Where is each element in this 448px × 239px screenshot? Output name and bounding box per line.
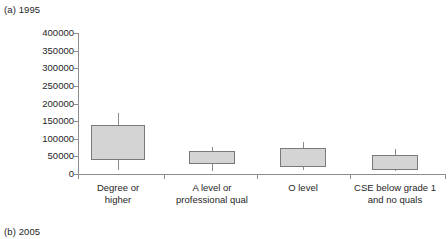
median-line — [189, 157, 235, 158]
x-axis-tick-mark — [445, 174, 446, 179]
y-axis-tick-mark — [74, 68, 78, 69]
y-axis-tick-label: 250000 — [18, 81, 74, 91]
x-axis-label-line2: professional qual — [157, 194, 267, 206]
median-line — [91, 144, 145, 145]
median-line — [372, 161, 418, 162]
y-axis-tick-mark — [74, 104, 78, 105]
x-axis-line — [78, 174, 445, 175]
y-axis-tick-label: 150000 — [18, 116, 74, 126]
boxplot-chart-1995: 4000003500003000002500002000001500001000… — [0, 22, 448, 212]
x-axis-tick-mark — [350, 174, 351, 179]
interquartile-box — [91, 125, 145, 160]
panel-b-caption: (b) 2005 — [4, 226, 40, 237]
x-axis-label-line1: CSE below grade 1 — [340, 182, 448, 194]
y-axis-tick-label: 100000 — [18, 134, 74, 144]
y-axis-tick-mark — [74, 33, 78, 34]
y-axis-tick-mark — [74, 86, 78, 87]
panel-a-caption: (a) 1995 — [4, 4, 40, 15]
y-axis-line — [78, 33, 79, 174]
x-axis-label-line2: and no quals — [340, 194, 448, 206]
x-axis-tick-mark — [78, 174, 79, 179]
y-axis-tick-mark — [74, 121, 78, 122]
y-axis-tick-mark — [74, 51, 78, 52]
y-axis-tick-label: 300000 — [18, 63, 74, 73]
x-axis-label-4: CSE below grade 1and no quals — [340, 182, 448, 205]
median-line — [280, 156, 326, 157]
x-axis-tick-mark — [164, 174, 165, 179]
y-axis-tick-mark — [74, 156, 78, 157]
y-axis-tick-label: 50000 — [18, 151, 74, 161]
x-axis-tick-mark — [257, 174, 258, 179]
y-axis-tick-mark — [74, 139, 78, 140]
y-axis-tick-label: 0 — [18, 169, 74, 179]
y-axis-tick-label: 350000 — [18, 46, 74, 56]
y-axis-tick-label: 400000 — [18, 28, 74, 38]
y-axis-tick-label: 200000 — [18, 99, 74, 109]
